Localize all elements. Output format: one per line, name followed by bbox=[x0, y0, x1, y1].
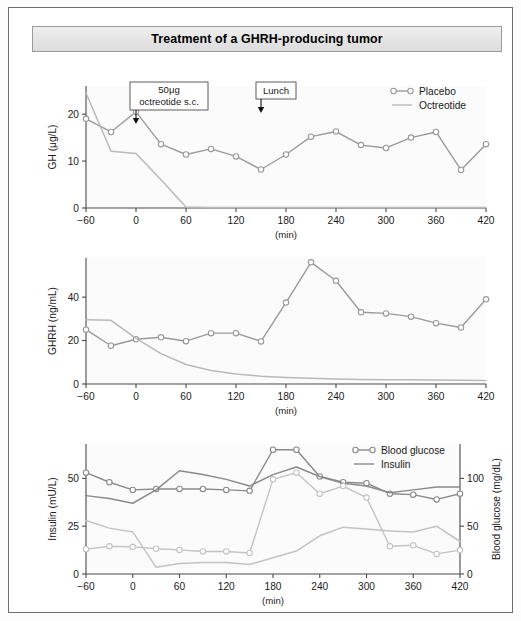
data-point-marker bbox=[434, 497, 439, 502]
x-tick-label: 420 bbox=[478, 391, 495, 402]
x-tick-label: 420 bbox=[452, 581, 469, 592]
data-point-marker bbox=[83, 470, 88, 475]
data-point-marker bbox=[153, 546, 158, 551]
annotation-line-1: Lunch bbox=[263, 85, 289, 96]
data-point-marker bbox=[308, 134, 313, 139]
legend-label: Blood glucose bbox=[381, 445, 445, 456]
x-tick-label: 300 bbox=[378, 391, 395, 402]
x-tick-label: 120 bbox=[228, 391, 245, 402]
y-tick-label-left: 0 bbox=[73, 569, 79, 580]
chart-panel-ghrh: 02040GHRH (ng/mL)−6006012018024030036042… bbox=[20, 242, 520, 428]
data-point-marker bbox=[358, 310, 363, 315]
x-tick-label: 180 bbox=[278, 391, 295, 402]
y-tick-label-left: 50 bbox=[68, 473, 80, 484]
data-point-marker bbox=[433, 129, 438, 134]
data-point-marker bbox=[408, 314, 413, 319]
panel-gh: 01020GH (μg/L)−60060120180240300360420(m… bbox=[20, 56, 520, 242]
data-point-marker bbox=[457, 547, 462, 552]
x-tick-label: 0 bbox=[130, 581, 136, 592]
figure-content: Treatment of a GHRH-producing tumor 0102… bbox=[10, 8, 511, 611]
data-point-marker bbox=[340, 483, 345, 488]
data-point-marker bbox=[233, 330, 238, 335]
data-point-marker bbox=[308, 260, 313, 265]
data-point-marker bbox=[294, 447, 299, 452]
legend-label: Placebo bbox=[419, 86, 456, 97]
x-tick-label: 120 bbox=[228, 215, 245, 226]
x-tick-label: 240 bbox=[328, 391, 345, 402]
data-point-marker bbox=[333, 129, 338, 134]
data-point-marker bbox=[108, 343, 113, 348]
legend-marker-icon bbox=[353, 447, 358, 452]
y-tick-label-right: 0 bbox=[467, 569, 473, 580]
legend-marker-icon bbox=[408, 88, 413, 93]
data-point-marker bbox=[258, 167, 263, 172]
x-tick-label: −60 bbox=[77, 215, 95, 226]
data-point-marker bbox=[383, 145, 388, 150]
x-tick-label: −60 bbox=[77, 581, 95, 592]
data-point-marker bbox=[224, 487, 229, 492]
data-point-marker bbox=[387, 544, 392, 549]
data-point-marker bbox=[411, 543, 416, 548]
figure-root: Treatment of a GHRH-producing tumor 0102… bbox=[0, 0, 521, 621]
data-point-marker bbox=[200, 549, 205, 554]
data-point-marker bbox=[130, 487, 135, 492]
panel-ghrh: 02040GHRH (ng/mL)−6006012018024030036042… bbox=[20, 242, 520, 428]
data-point-marker bbox=[283, 300, 288, 305]
data-point-marker bbox=[458, 325, 463, 330]
x-tick-label: 0 bbox=[133, 215, 139, 226]
data-point-marker bbox=[108, 129, 113, 134]
x-tick-label: 360 bbox=[428, 215, 445, 226]
data-point-marker bbox=[177, 486, 182, 491]
data-point-marker bbox=[258, 339, 263, 344]
x-axis-title: (min) bbox=[275, 405, 297, 416]
data-point-marker bbox=[208, 146, 213, 151]
page-title: Treatment of a GHRH-producing tumor bbox=[151, 32, 382, 46]
y-axis-title-left: Insulin (mU/L) bbox=[47, 477, 58, 540]
legend-marker-icon bbox=[370, 447, 375, 452]
data-point-marker bbox=[458, 167, 463, 172]
annotation-line-1: 50μg bbox=[158, 84, 180, 95]
annotation-line-2: octreotide s.c. bbox=[139, 96, 199, 107]
data-point-marker bbox=[107, 544, 112, 549]
x-tick-label: 60 bbox=[180, 215, 192, 226]
y-tick-label-right: 50 bbox=[467, 521, 479, 532]
legend-marker-icon bbox=[391, 88, 396, 93]
y-tick-label-left: 0 bbox=[73, 379, 79, 390]
data-point-marker bbox=[200, 486, 205, 491]
data-point-marker bbox=[434, 551, 439, 556]
y-axis-title-left: GH (μg/L) bbox=[47, 125, 58, 170]
x-tick-label: 240 bbox=[328, 215, 345, 226]
data-point-marker bbox=[83, 546, 88, 551]
y-tick-label-left: 0 bbox=[73, 203, 79, 214]
data-point-marker bbox=[208, 330, 213, 335]
data-point-marker bbox=[433, 320, 438, 325]
y-axis-title-right: Blood glucose (mg/dL) bbox=[491, 458, 502, 560]
y-tick-label-left: 40 bbox=[68, 292, 80, 303]
data-point-marker bbox=[270, 477, 275, 482]
panel-insulin-glucose: 02550Insulin (mU/L)−60060120180240300360… bbox=[20, 428, 520, 618]
legend-label: Octreotide bbox=[419, 100, 466, 111]
y-tick-label-right: 100 bbox=[467, 473, 484, 484]
data-point-marker bbox=[130, 544, 135, 549]
chart-panel-insulin-glucose: 02550Insulin (mU/L)−60060120180240300360… bbox=[20, 428, 520, 618]
data-point-marker bbox=[411, 492, 416, 497]
x-tick-label: 240 bbox=[311, 581, 328, 592]
y-tick-label-left: 25 bbox=[68, 521, 80, 532]
data-point-marker bbox=[270, 447, 275, 452]
data-point-marker bbox=[364, 495, 369, 500]
data-point-marker bbox=[177, 547, 182, 552]
data-point-marker bbox=[483, 141, 488, 146]
x-tick-label: 300 bbox=[358, 581, 375, 592]
chart-panel-gh: 01020GH (μg/L)−60060120180240300360420(m… bbox=[20, 56, 520, 242]
data-point-marker bbox=[483, 297, 488, 302]
y-tick-label-left: 20 bbox=[68, 109, 80, 120]
data-point-marker bbox=[224, 549, 229, 554]
x-tick-label: 120 bbox=[218, 581, 235, 592]
figure-title-bar: Treatment of a GHRH-producing tumor bbox=[32, 26, 502, 52]
x-tick-label: 360 bbox=[428, 391, 445, 402]
legend-label: Insulin bbox=[381, 459, 410, 470]
data-point-marker bbox=[294, 470, 299, 475]
data-point-marker bbox=[183, 339, 188, 344]
data-point-marker bbox=[247, 550, 252, 555]
y-axis-title-left: GHRH (ng/mL) bbox=[47, 287, 58, 355]
